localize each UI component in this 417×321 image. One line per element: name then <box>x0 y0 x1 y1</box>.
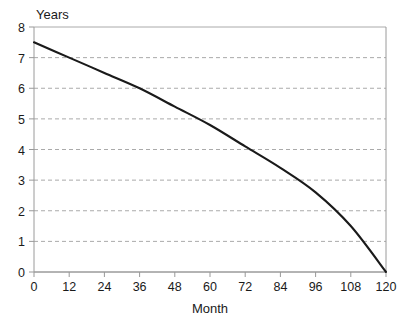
x-axis-title: Month <box>192 301 228 316</box>
y-tick-label-0: 0 <box>18 266 25 280</box>
chart-background <box>0 0 417 321</box>
y-tick-labels-group: 012345678 <box>18 21 25 280</box>
x-tick-label-24: 24 <box>97 280 111 294</box>
line-chart: 01224364860728496108120 012345678 Years … <box>0 0 417 321</box>
x-tick-label-120: 120 <box>376 280 397 294</box>
y-tick-label-6: 6 <box>18 82 25 96</box>
x-tick-label-12: 12 <box>62 280 76 294</box>
y-tick-label-5: 5 <box>18 113 25 127</box>
x-tick-label-96: 96 <box>309 280 323 294</box>
x-tick-label-0: 0 <box>31 280 38 294</box>
x-tick-label-84: 84 <box>273 280 287 294</box>
y-tick-label-1: 1 <box>18 235 25 249</box>
x-tick-label-36: 36 <box>133 280 147 294</box>
y-tick-label-4: 4 <box>18 144 25 158</box>
x-tick-label-48: 48 <box>168 280 182 294</box>
y-tick-label-8: 8 <box>18 21 25 35</box>
chart-container: 01224364860728496108120 012345678 Years … <box>0 0 417 321</box>
x-tick-label-60: 60 <box>203 280 217 294</box>
y-axis-title: Years <box>36 7 69 22</box>
y-tick-label-3: 3 <box>18 174 25 188</box>
y-tick-label-7: 7 <box>18 52 25 66</box>
x-tick-label-108: 108 <box>340 280 361 294</box>
x-tick-label-72: 72 <box>238 280 252 294</box>
y-tick-label-2: 2 <box>18 205 25 219</box>
